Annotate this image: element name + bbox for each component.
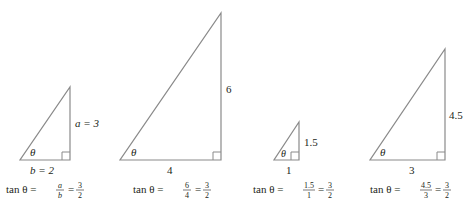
tan-formula: tan θ = 4.5 3 = 3 2 [370,181,451,200]
formula-prefix: tan θ = [253,183,283,195]
triangle-4: θ 4.5 3 tan θ = 4.5 3 = 3 2 [370,49,463,200]
opposite-side-label: 6 [226,83,232,95]
right-angle-marker [437,152,445,160]
right-angle-marker [213,152,221,160]
frac2-denominator: 2 [78,191,82,200]
frac1-denominator: b [58,191,62,200]
triangle-4-shape [370,49,445,160]
right-angle-marker [62,152,70,160]
adjacent-side-label: 1 [286,164,292,176]
frac1-denominator: 1 [307,191,311,200]
formula-equals: = [195,183,201,195]
triangle-1-shape [20,87,70,160]
opposite-side-label: a = 3 [75,117,99,129]
triangle-2: θ 6 4 tan θ = 6 4 = 3 2 [120,13,232,200]
formula-equals: = [435,183,441,195]
formula-prefix: tan θ = [6,183,36,195]
frac2-numerator: 3 [445,181,449,190]
frac1-numerator: 1.5 [304,181,314,190]
similar-triangles-diagram: θ a = 3 b = 2 tan θ = a b = 3 2 θ 6 4 ta… [0,0,469,209]
frac2-numerator: 3 [328,181,332,190]
formula-prefix: tan θ = [133,183,163,195]
triangle-3: θ 1.5 1 tan θ = 1.5 1 = 3 2 [253,122,334,200]
frac2-denominator: 2 [445,191,449,200]
frac2-denominator: 2 [205,191,209,200]
frac2-numerator: 3 [78,181,82,190]
frac2-denominator: 2 [328,191,332,200]
triangle-2-shape [120,13,221,160]
theta-label: θ [380,146,386,158]
adjacent-side-label: 4 [167,164,173,176]
frac1-numerator: 6 [185,181,189,190]
frac1-numerator: a [58,181,62,190]
adjacent-side-label: 3 [409,164,415,176]
triangle-1: θ a = 3 b = 2 tan θ = a b = 3 2 [6,87,99,200]
adjacent-side-label: b = 2 [30,164,54,176]
opposite-side-label: 1.5 [304,136,318,148]
frac1-numerator: 4.5 [421,181,431,190]
formula-equals: = [68,183,74,195]
frac2-numerator: 3 [205,181,209,190]
right-angle-marker [291,152,299,160]
theta-label: θ [281,148,286,159]
tan-formula: tan θ = a b = 3 2 [6,181,84,200]
tan-formula: tan θ = 1.5 1 = 3 2 [253,181,334,200]
opposite-side-label: 4.5 [449,109,463,121]
formula-equals: = [318,183,324,195]
formula-prefix: tan θ = [370,183,400,195]
theta-label: θ [131,146,137,158]
theta-label: θ [30,146,36,158]
triangle-3-shape [274,122,299,160]
tan-formula: tan θ = 6 4 = 3 2 [133,181,211,200]
frac1-denominator: 3 [424,191,428,200]
frac1-denominator: 4 [185,191,189,200]
